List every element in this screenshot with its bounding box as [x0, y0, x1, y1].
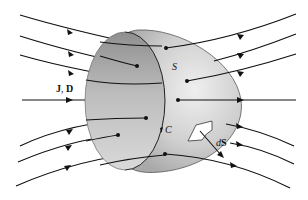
surface-integral-diagram: J, D S C dS — [0, 0, 308, 200]
label-contour-c: C — [165, 124, 172, 135]
pierce-dot — [116, 133, 120, 137]
label-field-j-d: J, D — [56, 83, 73, 94]
label-area-element-ds: dS — [216, 137, 227, 148]
pierce-dot — [135, 64, 139, 68]
field-line-2-out — [214, 34, 296, 61]
label-surface-s: S — [172, 61, 177, 72]
pierce-dot — [144, 116, 148, 120]
field-line-6-out — [230, 143, 294, 164]
